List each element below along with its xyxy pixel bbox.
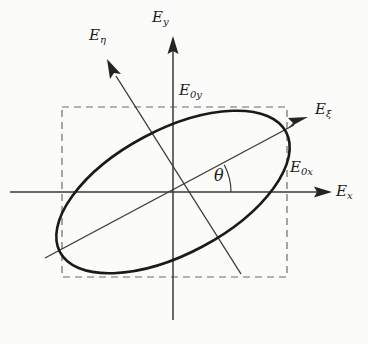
label-e0x-sub: 0x — [301, 166, 313, 177]
polarization-ellipse-figure: Ey Eη Eξ E0y E0x Ex θ — [0, 0, 368, 344]
label-ex-base: E — [336, 182, 347, 200]
label-ex: Ex — [336, 184, 353, 199]
label-e0y-sub: 0y — [190, 89, 202, 100]
label-e0x: E0x — [290, 160, 313, 175]
label-theta: θ — [214, 168, 224, 184]
label-ey: Ey — [152, 10, 169, 25]
label-e0y: E0y — [179, 83, 202, 98]
label-e0y-base: E — [179, 81, 190, 99]
label-ey-base: E — [152, 8, 163, 26]
arrow-head-eeta — [107, 59, 121, 79]
label-eeta-base: E — [89, 26, 100, 44]
label-ey-sub: y — [163, 16, 169, 27]
label-e0x-base: E — [290, 158, 301, 176]
label-exi-sub: ξ — [326, 108, 332, 119]
label-eeta: Eη — [89, 28, 106, 43]
label-exi: Eξ — [315, 102, 331, 117]
arrow-head-exi — [288, 117, 308, 128]
label-ex-sub: x — [347, 190, 353, 201]
label-exi-base: E — [315, 100, 326, 118]
label-eeta-sub: η — [100, 34, 106, 45]
theta-arc — [224, 165, 231, 192]
